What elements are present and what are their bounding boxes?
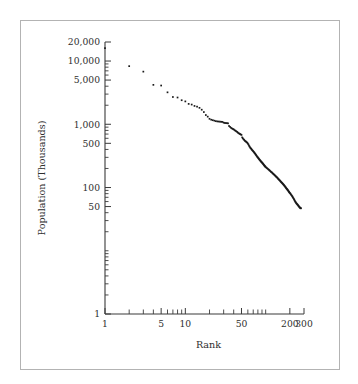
x-tick-label: 5 xyxy=(158,318,164,329)
x-axis: 151050200300 xyxy=(102,308,313,329)
data-point xyxy=(203,111,205,113)
y-axis-title: Population (Thousands) xyxy=(36,121,47,236)
y-tick-label: 500 xyxy=(82,138,100,149)
data-point xyxy=(212,119,214,121)
data-point xyxy=(191,104,193,106)
data-point xyxy=(201,109,203,111)
data-point xyxy=(207,116,209,118)
y-tick-label: 50 xyxy=(88,201,100,212)
y-tick-label: 100 xyxy=(82,182,100,193)
y-tick-label: 1 xyxy=(94,308,100,319)
data-point xyxy=(160,85,162,87)
data-point xyxy=(241,134,243,136)
data-point xyxy=(227,122,229,124)
data-point xyxy=(188,103,190,105)
data-point xyxy=(142,71,144,73)
data-point xyxy=(177,97,179,99)
data-point xyxy=(184,101,186,103)
data-point xyxy=(172,96,174,98)
data-point xyxy=(209,118,211,120)
data-point xyxy=(104,47,106,49)
x-tick-label: 50 xyxy=(236,318,248,329)
data-point xyxy=(214,120,216,122)
data-point xyxy=(194,105,196,107)
y-tick-label: 10,000 xyxy=(68,55,100,66)
data-point xyxy=(128,65,130,67)
data-points xyxy=(104,47,302,209)
y-axis: 1501005001,0005,00010,00020,000 xyxy=(68,36,111,319)
data-point xyxy=(181,99,183,101)
data-point xyxy=(210,119,212,121)
data-point xyxy=(153,84,155,86)
x-axis-title: Rank xyxy=(196,339,221,350)
data-point xyxy=(196,106,198,108)
y-tick-label: 1,000 xyxy=(74,119,100,130)
x-tick-label: 1 xyxy=(102,318,108,329)
data-point xyxy=(205,114,207,116)
figure-frame: 1501005001,0005,00010,00020,000 15105020… xyxy=(20,20,340,370)
y-tick-label: 5,000 xyxy=(74,74,100,85)
x-tick-label: 10 xyxy=(179,318,191,329)
x-tick-label: 300 xyxy=(295,318,313,329)
data-point xyxy=(167,91,169,93)
rank-size-scatter-plot: 1501005001,0005,00010,00020,000 15105020… xyxy=(21,21,339,369)
y-tick-label: 20,000 xyxy=(68,36,100,47)
data-point xyxy=(199,107,201,109)
data-point xyxy=(300,207,302,209)
